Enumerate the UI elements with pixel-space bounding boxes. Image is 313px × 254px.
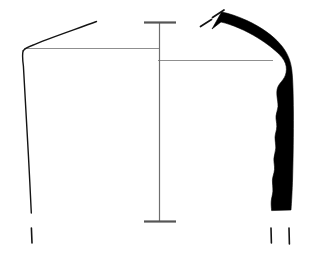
figure-root: [0, 0, 313, 254]
left-base-tick: [31, 228, 32, 243]
vessel-profile-drawing: [0, 0, 313, 254]
